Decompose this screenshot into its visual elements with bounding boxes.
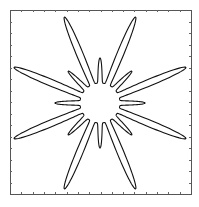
axes-frame (11, 11, 192, 195)
polar-rose-plot (0, 0, 199, 207)
rose-curve (14, 17, 186, 189)
plot-canvas (0, 0, 199, 207)
axis-ticks (10, 10, 191, 194)
